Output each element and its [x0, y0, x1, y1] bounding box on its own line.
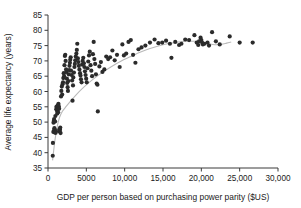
data-point	[86, 59, 90, 63]
data-point	[70, 99, 74, 103]
y-tick-label: 85	[33, 11, 43, 20]
data-point	[69, 55, 73, 59]
data-point	[156, 41, 160, 45]
data-point	[164, 39, 168, 43]
data-point	[124, 51, 128, 55]
data-point	[77, 67, 81, 71]
x-tick-label: 30,000	[265, 174, 290, 183]
data-point	[238, 40, 242, 44]
x-tick-label: 0	[46, 174, 51, 183]
data-point	[56, 110, 60, 114]
data-point	[187, 38, 191, 42]
data-point	[53, 119, 57, 123]
data-point	[108, 55, 112, 59]
data-point	[89, 69, 93, 73]
y-tick-label: 45	[33, 133, 43, 142]
data-point	[62, 63, 66, 67]
data-point	[139, 45, 143, 49]
y-tick-label: 40	[33, 149, 43, 158]
x-tick-label: 15,000	[150, 174, 175, 183]
data-point	[61, 80, 65, 84]
data-point	[96, 109, 100, 113]
x-tick-label: 25,000	[227, 174, 252, 183]
y-tick-labels: 3540455055606570758085	[33, 11, 43, 173]
data-point	[51, 141, 55, 145]
data-point	[179, 42, 183, 46]
y-tick-label: 35	[33, 164, 43, 173]
data-point	[66, 89, 70, 93]
y-tick-label: 75	[33, 42, 43, 51]
data-point	[79, 80, 83, 84]
data-point	[58, 131, 62, 135]
data-point	[85, 80, 89, 84]
data-point	[228, 34, 232, 38]
data-point	[78, 73, 82, 77]
data-point	[85, 66, 89, 70]
data-point	[84, 77, 88, 81]
data-point	[148, 40, 152, 44]
y-tick-label: 55	[33, 103, 43, 112]
data-point	[169, 56, 173, 60]
data-point	[115, 53, 119, 57]
x-tick-labels: 0500010,00015,00020,00025,00030,000	[46, 174, 291, 183]
data-point	[110, 48, 114, 52]
data-point	[133, 61, 137, 65]
data-point	[102, 67, 106, 71]
x-tick-label: 5000	[77, 174, 96, 183]
data-point	[92, 40, 96, 44]
x-axis-title: GDP per person based on purchasing power…	[57, 192, 270, 202]
data-point	[66, 79, 70, 83]
data-point	[113, 58, 117, 62]
data-points	[51, 30, 255, 158]
data-point	[72, 70, 76, 74]
data-point	[83, 73, 87, 77]
data-point	[91, 52, 95, 56]
data-point	[118, 65, 122, 69]
data-point	[66, 85, 70, 89]
data-point	[81, 56, 85, 60]
data-point	[74, 51, 78, 55]
data-point	[120, 42, 124, 46]
y-tick-label: 50	[33, 118, 43, 127]
data-point	[88, 63, 92, 67]
data-point	[93, 62, 97, 66]
plot-area: 0500010,00015,00020,00025,00030,000 3540…	[0, 0, 301, 208]
data-point	[95, 83, 99, 87]
y-tick-label: 60	[33, 88, 43, 97]
data-point	[218, 42, 222, 46]
data-point	[76, 56, 80, 60]
y-tick-label: 65	[33, 72, 43, 81]
data-point	[60, 92, 64, 96]
y-tick-label: 70	[33, 57, 43, 66]
data-point	[57, 107, 61, 111]
data-point	[64, 59, 68, 63]
data-point	[97, 64, 101, 68]
data-point	[183, 37, 187, 41]
data-point	[160, 40, 164, 44]
data-point	[168, 42, 172, 46]
data-point	[58, 126, 62, 130]
data-point	[63, 53, 67, 57]
data-point	[129, 38, 133, 42]
data-point	[207, 44, 211, 48]
scatter-chart: 0500010,00015,00020,00025,00030,000 3540…	[0, 0, 301, 208]
data-point	[192, 33, 196, 37]
data-point	[75, 42, 79, 46]
data-point	[131, 53, 135, 57]
data-point	[210, 30, 214, 34]
data-point	[94, 72, 98, 76]
x-tick-label: 10,000	[112, 174, 137, 183]
data-point	[87, 53, 91, 57]
data-point	[251, 40, 255, 44]
data-point	[71, 75, 75, 79]
data-point	[214, 39, 218, 43]
data-point	[196, 43, 200, 47]
data-point	[75, 48, 79, 52]
data-point	[99, 60, 103, 64]
data-point	[90, 74, 94, 78]
data-point	[152, 37, 156, 41]
y-tick-label: 80	[33, 26, 43, 35]
data-point	[143, 44, 147, 48]
y-axis-title: Average life expectancy (years)	[3, 33, 13, 150]
x-tick-label: 20,000	[189, 174, 214, 183]
